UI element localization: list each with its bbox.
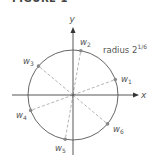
point-w2 xyxy=(79,49,83,53)
point-w1 xyxy=(114,78,118,82)
point-w6 xyxy=(106,122,110,126)
roots-of-unity-diagram: x y radius 21/6 w1 w2 w3 w4 w5 w6 xyxy=(0,0,160,168)
point-w5 xyxy=(63,138,67,142)
label-w5: w5 xyxy=(55,143,66,154)
x-axis-label: x xyxy=(140,90,147,100)
radius-label: radius 21/6 xyxy=(103,43,147,55)
label-w2: w2 xyxy=(80,37,91,48)
label-w3: w3 xyxy=(23,56,34,67)
label-w4: w4 xyxy=(16,110,27,121)
y-axis-label: y xyxy=(69,14,76,24)
y-axis-arrow-icon xyxy=(71,27,76,33)
x-axis-arrow-icon xyxy=(133,93,139,98)
label-w6: w6 xyxy=(113,124,124,135)
label-w1: w1 xyxy=(121,74,132,85)
point-w4 xyxy=(29,109,33,113)
point-w3 xyxy=(37,64,41,68)
